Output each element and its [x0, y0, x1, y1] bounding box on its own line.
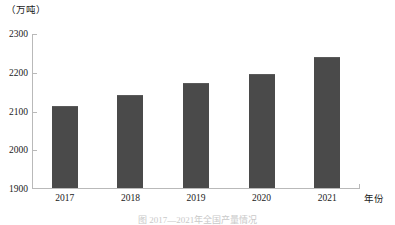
bar-2017 — [52, 106, 78, 188]
x-tick-label-2021: 2021 — [318, 192, 337, 204]
bar-2019 — [183, 83, 209, 188]
y-axis-tick — [33, 150, 37, 151]
figure-caption-clipped: 图 2017—2021年全国产量情况 — [0, 215, 395, 225]
figure-caption-text: 图 2017—2021年全国产量情况 — [0, 215, 395, 225]
bar-2020 — [249, 74, 275, 188]
x-axis-tick-labels: 2017 2018 2019 2020 2021 — [32, 192, 360, 206]
x-tick-label-2019: 2019 — [187, 192, 206, 204]
x-axis-line — [32, 188, 360, 189]
bar-2021 — [314, 57, 340, 188]
x-axis-cap — [359, 184, 360, 189]
y-axis-tick-labels: 2300 2200 2100 2000 1900 — [0, 34, 28, 189]
x-tick-label-2018: 2018 — [121, 192, 140, 204]
y-tick-label: 2000 — [0, 145, 28, 155]
x-tick-label-2020: 2020 — [252, 192, 271, 204]
bar-2018 — [117, 95, 143, 188]
y-axis-tick — [33, 34, 37, 35]
y-axis-unit-label: （万吨） — [6, 4, 46, 16]
x-axis-title: 年份 — [364, 193, 384, 205]
chart-screenshot: （万吨） 2300 2200 2100 2000 1900 2017 2018 … — [0, 0, 395, 225]
y-tick-label: 1900 — [0, 184, 28, 194]
y-tick-label: 2300 — [0, 29, 28, 39]
y-axis-tick — [33, 73, 37, 74]
x-tick-label-2017: 2017 — [55, 192, 74, 204]
plot-area — [32, 34, 360, 189]
y-axis-tick — [33, 112, 37, 113]
y-tick-label: 2100 — [0, 107, 28, 117]
y-tick-label: 2200 — [0, 68, 28, 78]
